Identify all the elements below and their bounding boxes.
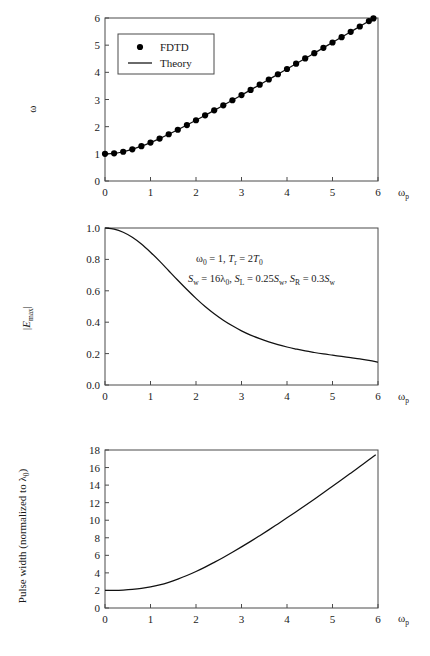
annotation-line-2: Sw = 16λ0, SL = 0.25Sw, SR = 0.3Sw (188, 273, 336, 287)
y-tick-label: 6 (95, 12, 101, 24)
y-axis-label-omega: ω (26, 105, 38, 112)
y-tick-label: 0.8 (86, 253, 100, 265)
fdtd-data-point (111, 150, 117, 156)
x-tick-label: 4 (284, 390, 290, 402)
fdtd-data-point (175, 127, 181, 133)
x-tick-label: 5 (330, 390, 336, 402)
y-tick-label: 2 (95, 584, 101, 596)
figure-container: 01234560123456 FDTDTheory ω ωp 01234560.… (0, 0, 430, 656)
fdtd-data-point (275, 71, 281, 77)
fdtd-data-point (229, 97, 235, 103)
x-tick-label: 2 (193, 186, 199, 198)
fdtd-data-point (370, 15, 376, 21)
plot-frame (105, 450, 378, 608)
y-tick-label: 0.2 (86, 348, 100, 360)
x-tick-label: 3 (239, 390, 245, 402)
x-axis-label-omega-p: ωp (398, 612, 409, 627)
fdtd-data-point (284, 66, 290, 72)
y-tick-label: 14 (89, 479, 101, 491)
y-tick-label: 8 (95, 532, 101, 544)
fdtd-data-point (348, 29, 354, 35)
panel-emax: 01234560.00.20.40.60.81.0 |Emax| ωp ω0 =… (0, 218, 430, 436)
y-tick-label: 0.6 (86, 285, 100, 297)
y-tick-label: 4 (95, 66, 101, 78)
x-tick-label: 0 (102, 390, 108, 402)
y-tick-label: 4 (95, 567, 101, 579)
x-axis-label-omega-p: ωp (398, 186, 409, 201)
x-tick-label: 0 (102, 186, 108, 198)
fdtd-data-point (147, 139, 153, 145)
x-tick-label: 2 (193, 390, 199, 402)
x-tick-label: 3 (239, 186, 245, 198)
fdtd-data-point (266, 76, 272, 82)
fdtd-data-point (320, 45, 326, 51)
y-tick-label: 1 (95, 148, 101, 160)
y-tick-label: 6 (95, 549, 101, 561)
x-tick-label: 6 (375, 186, 381, 198)
fdtd-data-point (211, 107, 217, 113)
panel-dispersion: 01234560123456 FDTDTheory ω ωp (0, 0, 430, 218)
fdtd-data-point (120, 149, 126, 155)
fdtd-data-point (339, 34, 345, 40)
fdtd-data-point (138, 143, 144, 149)
legend-label-theory: Theory (160, 57, 192, 69)
emax-curve (105, 228, 378, 362)
y-tick-label: 3 (95, 94, 101, 106)
x-axis-label-omega-p: ωp (398, 390, 409, 405)
y-tick-label: 5 (95, 39, 101, 51)
fdtd-data-point (238, 92, 244, 98)
y-tick-label: 10 (89, 514, 101, 526)
annotation-line-1: ω0 = 1, Tr = 2T0 (196, 253, 263, 267)
y-tick-label: 1.0 (86, 222, 100, 234)
pulse-width-curve (105, 455, 376, 591)
y-axis-label-emax: |Emax| (20, 306, 35, 330)
fdtd-data-point (193, 117, 199, 123)
fdtd-data-point (311, 50, 317, 56)
fdtd-data-point (166, 131, 172, 137)
x-tick-label: 0 (102, 613, 108, 625)
x-tick-label: 4 (284, 186, 290, 198)
y-tick-label: 0 (95, 175, 101, 187)
fdtd-data-point (202, 112, 208, 118)
fdtd-data-point (220, 102, 226, 108)
fdtd-data-point (257, 82, 263, 88)
x-tick-label: 1 (148, 186, 154, 198)
y-tick-label: 0.4 (86, 316, 100, 328)
legend-label-fdtd: FDTD (160, 41, 189, 53)
panel-pulse-width: 0123456024681012141618 Pulse width (norm… (0, 436, 430, 656)
fdtd-data-point (357, 23, 363, 29)
x-tick-label: 6 (375, 390, 381, 402)
y-tick-label: 2 (95, 121, 101, 133)
y-tick-label: 0.0 (86, 379, 100, 391)
plot-frame (105, 228, 378, 385)
y-tick-label: 16 (89, 462, 101, 474)
x-tick-label: 4 (284, 613, 290, 625)
x-tick-label: 2 (193, 613, 199, 625)
legend-marker-fdtd (137, 44, 143, 50)
fdtd-data-point (157, 135, 163, 141)
x-tick-label: 5 (330, 186, 336, 198)
x-tick-label: 6 (375, 613, 381, 625)
y-tick-label: 18 (89, 444, 101, 456)
fdtd-data-point (129, 146, 135, 152)
fdtd-data-point (293, 61, 299, 67)
fdtd-data-point (102, 151, 108, 157)
x-tick-label: 3 (239, 613, 245, 625)
x-tick-label: 1 (148, 613, 154, 625)
fdtd-data-point (184, 122, 190, 128)
x-tick-label: 5 (330, 613, 336, 625)
fdtd-data-point (248, 87, 254, 93)
y-tick-label: 0 (95, 602, 101, 614)
fdtd-data-point (302, 55, 308, 61)
x-tick-label: 1 (148, 390, 154, 402)
y-axis-label-pulse-width: Pulse width (normalized to λ0) (16, 468, 31, 603)
fdtd-data-point (329, 39, 335, 45)
y-tick-label: 12 (89, 497, 100, 509)
